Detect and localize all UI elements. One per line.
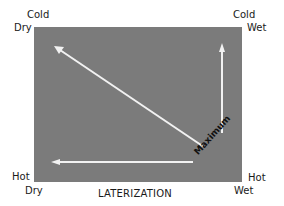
corner-top-right-line2: Wet (247, 23, 266, 33)
diagram-title: LATERIZATION (98, 188, 172, 199)
corner-top-right-line1: Cold (233, 10, 255, 20)
horizontal-arrowhead-icon (51, 159, 60, 165)
corner-bottom-right-line1: Hot (248, 173, 266, 183)
vertical-arrowhead-icon (219, 43, 225, 52)
corner-top-left-line2: Dry (14, 23, 32, 33)
arrows-layer (0, 0, 284, 206)
corner-bottom-left-line1: Hot (12, 172, 30, 182)
corner-bottom-right-line2: Wet (234, 186, 253, 196)
corner-top-left-line1: Cold (27, 10, 49, 20)
corner-bottom-left-line2: Dry (25, 186, 43, 196)
diagonal-arrow (60, 50, 204, 147)
